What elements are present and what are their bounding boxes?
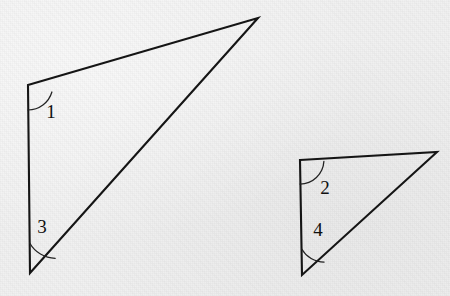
small-triangle-outline (300, 152, 437, 275)
angle-arc-4 (302, 249, 324, 262)
large-triangle: 1 3 (28, 18, 258, 273)
geometry-figure: 1 3 2 4 (0, 0, 450, 296)
angle-label-1: 1 (46, 101, 56, 122)
angle-label-4: 4 (313, 219, 323, 240)
angle-label-2: 2 (320, 177, 330, 198)
triangles-diagram: 1 3 2 4 (0, 0, 450, 296)
angle-label-3: 3 (37, 216, 47, 237)
small-triangle: 2 4 (300, 152, 437, 275)
large-triangle-outline (28, 18, 258, 273)
